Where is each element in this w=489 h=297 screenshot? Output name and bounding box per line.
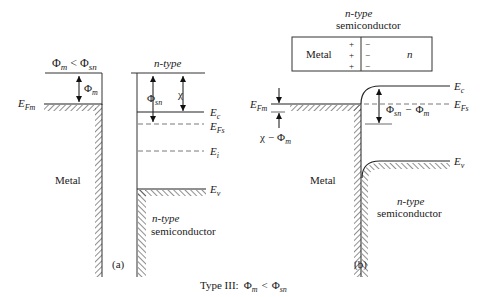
conduction-band-b xyxy=(361,86,450,104)
panel-b-label: (b) xyxy=(354,258,367,271)
svg-text:−: − xyxy=(365,50,370,60)
figure-caption: Type III:Φm<Φsn xyxy=(200,279,287,294)
panel-b: n-type semiconductor Metal + + + − − − n… xyxy=(249,7,469,277)
efm-label-b: EFm xyxy=(249,98,268,113)
band-diagram: Φm<Φsn Φm EFm Metal n-type Φsn xyxy=(0,0,489,297)
svg-text:n: n xyxy=(407,48,413,60)
semiconductor-label-a: n-type xyxy=(152,212,180,224)
svg-text:−: − xyxy=(365,61,370,71)
svg-text:+: + xyxy=(349,61,354,71)
svg-text:semiconductor: semiconductor xyxy=(377,207,442,219)
chi-label: χ xyxy=(177,88,183,100)
efs-label: EFs xyxy=(209,120,225,135)
svg-text:semiconductor: semiconductor xyxy=(151,225,216,237)
ec-label-b: Ec xyxy=(453,80,465,95)
ev-label-b: Ev xyxy=(453,155,465,170)
metal-filled-states xyxy=(44,105,96,111)
ei-label: Ei xyxy=(209,145,219,160)
ev-label: Ev xyxy=(209,183,221,198)
semiconductor-label-b: n-type xyxy=(397,195,425,207)
condition-label: Φm<Φsn xyxy=(52,56,97,72)
panel-a-label: (a) xyxy=(112,258,125,271)
n-type-top-label: n-type xyxy=(154,57,182,69)
box-metal-label: Metal xyxy=(306,48,332,60)
metal-label-b: Metal xyxy=(310,174,336,186)
barrier-label: Φsn−Φm xyxy=(386,103,429,118)
phi-m-label: Φm xyxy=(84,82,98,97)
svg-text:−: − xyxy=(365,39,370,49)
ec-label: Ec xyxy=(209,106,221,121)
panel-a: Φm<Φsn Φm EFm Metal n-type Φsn xyxy=(17,56,225,277)
efm-label: EFm xyxy=(17,97,36,112)
metal-label: Metal xyxy=(55,174,81,186)
efs-label-b: EFs xyxy=(453,98,469,113)
n-type-header: n-type xyxy=(345,7,373,19)
svg-text:+: + xyxy=(349,50,354,60)
svg-text:+: + xyxy=(349,39,354,49)
chi-minus-phi-label: χ−Φm xyxy=(259,131,291,146)
svg-text:semiconductor: semiconductor xyxy=(336,19,401,31)
phi-sn-label: Φsn xyxy=(147,92,162,107)
